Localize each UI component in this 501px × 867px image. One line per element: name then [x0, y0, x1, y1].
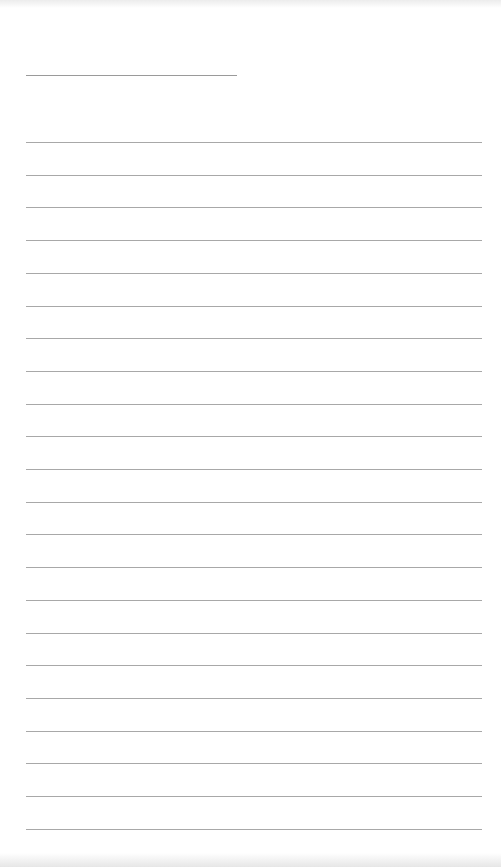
ruled-line: [26, 306, 482, 307]
title-line: [26, 75, 237, 76]
ruled-line: [26, 567, 482, 568]
ruled-line: [26, 796, 482, 797]
ruled-line: [26, 371, 482, 372]
ruled-line: [26, 404, 482, 405]
ruled-line: [26, 731, 482, 732]
ruled-line: [26, 469, 482, 470]
ruled-line: [26, 273, 482, 274]
ruled-line: [26, 665, 482, 666]
ruled-line: [26, 534, 482, 535]
ruled-line: [26, 207, 482, 208]
ruled-line: [26, 600, 482, 601]
scan-band-top: [0, 0, 501, 8]
ruled-line: [26, 502, 482, 503]
ruled-line: [26, 338, 482, 339]
ruled-line: [26, 436, 482, 437]
ruled-line: [26, 698, 482, 699]
ruled-line: [26, 763, 482, 764]
ruled-line: [26, 633, 482, 634]
ruled-line: [26, 175, 482, 176]
scan-band-bottom: [0, 853, 501, 867]
ruled-line: [26, 240, 482, 241]
ruled-line: [26, 142, 482, 143]
ruled-line: [26, 829, 482, 830]
